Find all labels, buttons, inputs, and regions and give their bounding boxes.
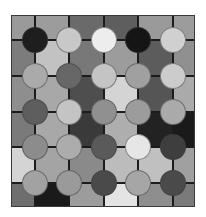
game-piece[interactable] bbox=[160, 63, 186, 89]
game-piece[interactable] bbox=[56, 63, 82, 89]
game-piece[interactable] bbox=[160, 134, 186, 160]
game-piece[interactable] bbox=[125, 99, 151, 125]
game-piece[interactable] bbox=[91, 63, 117, 89]
game-piece[interactable] bbox=[125, 170, 151, 196]
game-piece[interactable] bbox=[160, 170, 186, 196]
game-piece[interactable] bbox=[91, 170, 117, 196]
game-piece[interactable] bbox=[22, 134, 48, 160]
game-piece[interactable] bbox=[56, 134, 82, 160]
game-piece[interactable] bbox=[160, 99, 186, 125]
game-piece[interactable] bbox=[56, 27, 82, 53]
game-piece[interactable] bbox=[22, 170, 48, 196]
game-piece[interactable] bbox=[125, 134, 151, 160]
game-piece[interactable] bbox=[160, 27, 186, 53]
game-piece[interactable] bbox=[22, 27, 48, 53]
game-piece[interactable] bbox=[56, 99, 82, 125]
game-piece[interactable] bbox=[91, 134, 117, 160]
game-piece[interactable] bbox=[22, 99, 48, 125]
game-piece[interactable] bbox=[22, 63, 48, 89]
game-piece[interactable] bbox=[56, 170, 82, 196]
game-piece[interactable] bbox=[125, 63, 151, 89]
game-piece[interactable] bbox=[91, 99, 117, 125]
game-piece[interactable] bbox=[125, 27, 151, 53]
game-piece[interactable] bbox=[91, 27, 117, 53]
game-board bbox=[11, 15, 195, 207]
